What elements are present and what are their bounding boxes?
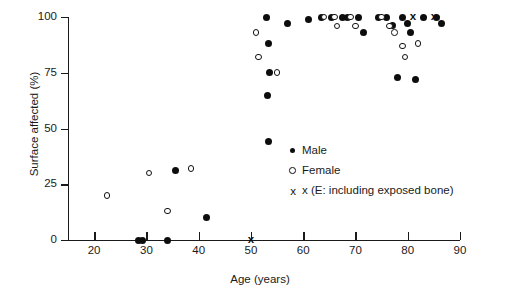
data-point-male [263,14,270,21]
data-point-female [391,29,398,36]
data-point-female [321,14,328,21]
data-point-female [104,192,111,199]
data-point-male [265,40,272,47]
x-axis-title: Age (years) [170,273,350,285]
x-tick-label: 70 [335,244,375,256]
legend-label-exposed-bone: x (E: including exposed bone) [302,185,454,197]
legend-item-female: Female [288,162,498,182]
x-marker-icon: x [288,182,298,200]
filled-circle-icon [290,148,295,153]
data-point-male [266,69,273,76]
data-point-female [255,54,262,61]
data-point-male [139,237,146,244]
x-tick-mark [408,232,409,240]
data-point-female [386,23,393,30]
data-point-female [253,29,260,36]
data-point-male [305,16,312,23]
data-point-male [394,74,401,81]
data-point-female [274,69,281,76]
y-tick-mark [61,17,69,18]
data-point-male [264,92,271,99]
x-tick-mark [303,232,304,240]
y-tick-mark [61,184,69,185]
data-point-female [347,14,354,21]
data-point-female [399,43,406,50]
x-axis-line [68,240,460,241]
legend-label-female: Female [302,165,340,177]
x-tick-label: 40 [179,244,219,256]
y-tick-label: 0 [27,234,57,246]
x-tick-label: 20 [74,244,114,256]
open-circle-icon [289,167,296,174]
y-tick-mark [61,240,69,241]
data-point-female [402,54,409,61]
scatter-plot-figure: 0255075100 2030405060708090 Surface affe… [0,0,511,307]
data-point-xmark: x [428,10,440,23]
data-point-female [334,23,341,30]
x-tick-mark [146,232,147,240]
data-point-male [284,20,291,27]
y-axis-title: Surface affected (%) [28,29,40,219]
data-point-xmark: x [407,10,419,23]
x-tick-mark [460,232,461,240]
data-point-female [164,208,171,215]
y-tick-mark [61,129,69,130]
x-tick-label: 90 [440,244,480,256]
x-tick-label: 60 [283,244,323,256]
y-tick-label: 100 [27,11,57,23]
data-point-female [146,170,153,177]
data-point-male [355,14,362,21]
data-point-male [164,237,171,244]
x-tick-label: 80 [388,244,428,256]
x-tick-label: 30 [126,244,166,256]
data-point-female [188,165,195,172]
data-point-xmark: x [245,233,257,246]
data-point-male [420,14,427,21]
data-point-female [415,40,422,47]
data-point-male [203,214,210,221]
data-point-female [378,14,385,21]
chart-legend: Male Female x x (E: including exposed bo… [288,142,498,202]
data-point-male [360,29,367,36]
legend-item-male: Male [288,142,498,162]
data-point-male [407,29,414,36]
data-point-male [172,167,179,174]
x-tick-mark [94,232,95,240]
data-point-male [412,76,419,83]
data-point-male [265,138,272,145]
x-tick-mark [355,232,356,240]
data-point-female [331,14,338,21]
legend-item-exposed-bone: x x (E: including exposed bone) [288,182,498,202]
legend-label-male: Male [302,145,327,157]
y-tick-mark [61,73,69,74]
x-tick-mark [199,232,200,240]
data-point-female [352,23,359,30]
